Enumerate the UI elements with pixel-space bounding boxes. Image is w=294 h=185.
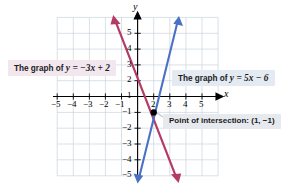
xtick-label-neg4: −4 xyxy=(67,99,77,109)
callout-red-prefix: The graph of xyxy=(14,64,66,73)
xtick-label-2: 2 xyxy=(151,99,156,109)
ytick-label-5: 5 xyxy=(127,27,132,37)
callout-blue-prefix: The graph of xyxy=(178,74,230,83)
ytick-label-neg1: −1 xyxy=(122,106,132,116)
red-arrow-top xyxy=(111,15,121,24)
callout-blue-expression: = 5x − 6 xyxy=(234,73,268,83)
ytick-label-2: 2 xyxy=(127,74,132,84)
xtick-label-4: 4 xyxy=(183,99,188,109)
callout-point-of-intersection: Point of intersection: (1, −1) xyxy=(163,114,281,129)
red-arrow-bottom xyxy=(171,174,181,183)
y-axis-label: y xyxy=(133,1,137,12)
ytick-label-4: 4 xyxy=(127,43,132,53)
x-axis-arrow xyxy=(216,93,223,100)
xtick-label-neg3: −3 xyxy=(83,99,93,109)
xtick-label-3: 3 xyxy=(167,99,172,109)
ytick-label-1: 1 xyxy=(127,90,132,100)
blue-arrow-bottom xyxy=(134,174,144,184)
callout-red-equation: The graph of y = −3x + 2 xyxy=(8,60,116,76)
y-axis-arrow xyxy=(134,12,141,19)
xtick-label-neg2: −2 xyxy=(99,99,109,109)
ytick-label-3: 3 xyxy=(127,59,132,69)
callout-red-expression: = −3x + 2 xyxy=(70,63,110,73)
line-blue-5x-minus-6 xyxy=(134,16,183,184)
ytick-label-neg2: −2 xyxy=(122,122,132,132)
ytick-label-neg4: −4 xyxy=(122,154,132,164)
xtick-label-5: 5 xyxy=(199,99,204,109)
callout-blue-equation: The graph of y = 5x − 6 xyxy=(172,70,275,86)
figure-root: y x −5 −4 −3 −2 −1 2 3 4 5 5 4 3 2 1 −1 … xyxy=(0,0,294,185)
ytick-label-neg5: −5 xyxy=(122,169,132,179)
ytick-label-neg3: −3 xyxy=(122,138,132,148)
x-axis-label: x xyxy=(224,88,228,99)
graph-canvas xyxy=(0,0,294,185)
axes xyxy=(53,12,223,178)
xtick-label-neg5: −5 xyxy=(51,99,61,109)
intersection-point xyxy=(151,109,157,115)
